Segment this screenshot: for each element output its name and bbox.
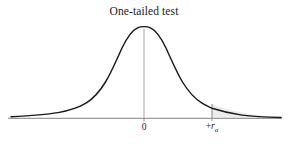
normal-curve — [11, 27, 281, 118]
critical-subscript-alpha: α — [215, 126, 219, 134]
axis-label-critical-value: +rα — [192, 121, 232, 136]
one-tailed-test-figure: One-tailed test 0 +rα — [0, 0, 288, 144]
axis-label-zero: 0 — [124, 122, 164, 133]
